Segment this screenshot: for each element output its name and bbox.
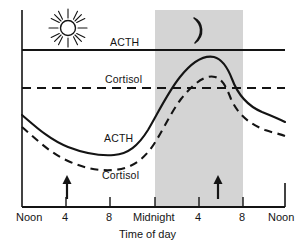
x-tick-label-noon-end: Noon	[268, 212, 294, 223]
x-tick-label-noon-start: Noon	[16, 212, 42, 223]
circadian-rhythm-figure: ACTH Cortisol ACTH Cortisol Noon 4 8 Mid…	[0, 0, 306, 246]
cortisol-curve	[22, 77, 285, 171]
plot-canvas	[0, 0, 306, 246]
x-tick-label-4am: 4	[195, 212, 201, 223]
x-axis-title: Time of day	[119, 229, 176, 240]
cortisol-reference-label: Cortisol	[105, 74, 142, 85]
x-tick-label-8am: 8	[239, 212, 245, 223]
up-arrow-icon-1	[63, 175, 72, 199]
x-tick-label-midnight: Midnight	[133, 212, 175, 223]
sun-icon	[49, 9, 87, 47]
cortisol-curve-label: Cortisol	[102, 170, 139, 181]
acth-curve	[22, 57, 285, 156]
x-tick-label-4am-day: 4	[62, 212, 68, 223]
acth-curve-label: ACTH	[104, 133, 133, 144]
acth-reference-label: ACTH	[110, 37, 139, 48]
x-tick-label-8pm: 8	[106, 212, 112, 223]
